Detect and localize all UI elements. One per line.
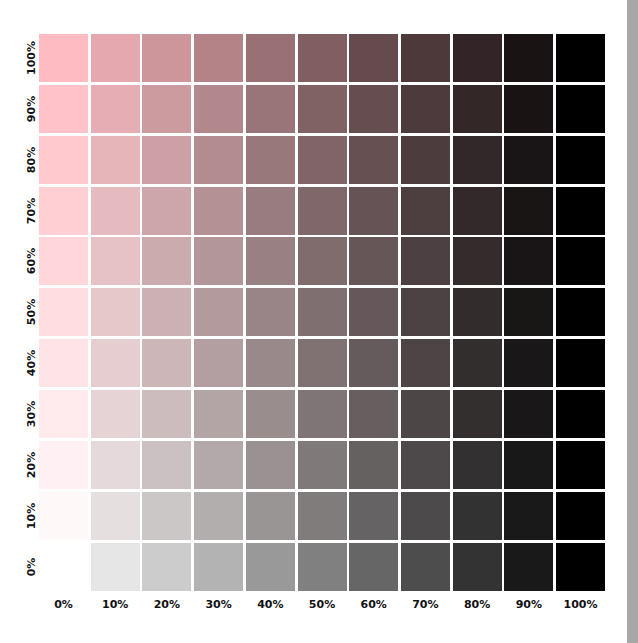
grid-cell xyxy=(194,288,243,336)
grid-cell xyxy=(401,390,450,438)
chart-canvas: 100%90%80%70%60%50%40%30%20%10%0% 0%10%2… xyxy=(0,0,638,643)
grid-cell xyxy=(504,237,553,285)
grid-cell xyxy=(142,187,191,235)
y-tick-label: 100% xyxy=(25,41,38,75)
grid-cell xyxy=(194,187,243,235)
grid-cell xyxy=(556,390,605,438)
grid-cell xyxy=(91,187,140,235)
grid-cell xyxy=(142,237,191,285)
y-tick-label: 20% xyxy=(25,452,38,478)
y-tick-label: 30% xyxy=(25,401,38,427)
grid-cell xyxy=(401,543,450,591)
grid-cell xyxy=(39,390,88,438)
grid-cell xyxy=(349,543,398,591)
grid-cell xyxy=(453,85,502,133)
grid-cell xyxy=(401,136,450,184)
grid-cell xyxy=(39,85,88,133)
grid-cell xyxy=(401,187,450,235)
x-tick-label: 60% xyxy=(361,598,387,611)
grid-cell xyxy=(453,136,502,184)
grid-cell xyxy=(401,339,450,387)
grid-cell xyxy=(504,288,553,336)
grid-cell xyxy=(194,136,243,184)
grid-cell xyxy=(91,543,140,591)
grid-cell xyxy=(349,339,398,387)
grid-cell xyxy=(504,136,553,184)
grid-cell xyxy=(453,187,502,235)
grid-cell xyxy=(453,390,502,438)
grid-cell xyxy=(246,390,295,438)
grid-cell xyxy=(401,34,450,82)
grid-cell xyxy=(142,492,191,540)
x-tick-label: 0% xyxy=(54,598,73,611)
y-tick-label: 70% xyxy=(25,197,38,223)
grid-cell xyxy=(556,441,605,489)
grid-cell xyxy=(401,85,450,133)
y-tick-label: 0% xyxy=(25,557,38,576)
grid-cell xyxy=(401,237,450,285)
grid-cell xyxy=(142,34,191,82)
grid-cell xyxy=(194,237,243,285)
grid-cell xyxy=(194,390,243,438)
y-tick-label: 60% xyxy=(25,248,38,274)
x-tick-label: 30% xyxy=(205,598,231,611)
grid-cell xyxy=(39,441,88,489)
grid-cell xyxy=(556,187,605,235)
grid-cell xyxy=(349,136,398,184)
grid-cell xyxy=(91,288,140,336)
x-tick-label: 100% xyxy=(564,598,598,611)
grid-cell xyxy=(142,136,191,184)
grid-cell xyxy=(91,237,140,285)
grid-cell xyxy=(298,187,347,235)
grid-cell xyxy=(453,288,502,336)
grid-cell xyxy=(298,85,347,133)
grid-cell xyxy=(453,339,502,387)
grid-cell xyxy=(401,492,450,540)
grid-cell xyxy=(246,237,295,285)
grid-cell xyxy=(556,288,605,336)
grid-cell xyxy=(556,543,605,591)
grid-cell xyxy=(142,441,191,489)
x-tick-label: 20% xyxy=(154,598,180,611)
grid-cell xyxy=(298,34,347,82)
grid-cell xyxy=(298,492,347,540)
grid-cell xyxy=(298,441,347,489)
grid-cell xyxy=(142,339,191,387)
grid-cell xyxy=(142,85,191,133)
grid-cell xyxy=(194,339,243,387)
grid-cell xyxy=(246,441,295,489)
x-tick-label: 50% xyxy=(309,598,335,611)
x-tick-label: 10% xyxy=(102,598,128,611)
grid-cell xyxy=(194,441,243,489)
y-tick-label: 40% xyxy=(25,350,38,376)
grid-cell xyxy=(246,288,295,336)
grid-cell xyxy=(298,136,347,184)
x-tick-label: 40% xyxy=(257,598,283,611)
grid-cell xyxy=(39,187,88,235)
grid-cell xyxy=(556,339,605,387)
grid-cell xyxy=(298,390,347,438)
y-tick-label: 10% xyxy=(25,502,38,528)
grid-cell xyxy=(39,543,88,591)
grid-cell xyxy=(142,288,191,336)
grid-cell xyxy=(349,237,398,285)
y-tick-label: 50% xyxy=(25,299,38,325)
grid-cell xyxy=(39,492,88,540)
x-tick-label: 70% xyxy=(412,598,438,611)
grid-cell xyxy=(91,492,140,540)
grid-cell xyxy=(246,543,295,591)
y-tick-label: 80% xyxy=(25,147,38,173)
grid-cell xyxy=(298,237,347,285)
grid-cell xyxy=(194,34,243,82)
grid-cell xyxy=(556,237,605,285)
color-mix-grid xyxy=(39,34,608,594)
grid-cell xyxy=(504,85,553,133)
x-tick-label: 80% xyxy=(464,598,490,611)
grid-cell xyxy=(39,136,88,184)
grid-cell xyxy=(349,492,398,540)
grid-cell xyxy=(298,339,347,387)
grid-cell xyxy=(91,339,140,387)
grid-cell xyxy=(349,34,398,82)
grid-cell xyxy=(504,339,553,387)
grid-cell xyxy=(142,390,191,438)
